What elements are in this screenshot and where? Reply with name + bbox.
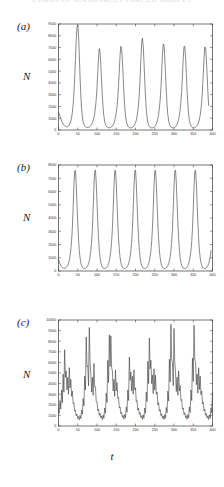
svg-text:0: 0 [54,424,56,428]
svg-text:6000: 6000 [48,361,56,365]
running-head-text: CHAOS IN SEASONALLY FORCED MODELS [32,0,191,4]
svg-text:250: 250 [152,428,158,432]
svg-text:400: 400 [210,132,216,136]
svg-text:250: 250 [152,273,158,277]
svg-text:150: 150 [113,132,119,136]
svg-text:50: 50 [76,132,80,136]
svg-text:4000: 4000 [48,382,56,386]
svg-text:4000: 4000 [48,81,56,85]
svg-text:3000: 3000 [48,393,56,397]
panel-b-y-axis-title: N [23,211,30,223]
svg-text:8000: 8000 [48,340,56,344]
svg-text:3000: 3000 [48,93,56,97]
svg-text:300: 300 [171,273,177,277]
panel-c-plot: 0100020003000400050006000700080009000100… [40,314,216,450]
svg-text:1000: 1000 [48,117,56,121]
panel-c-y-axis-title: N [23,368,30,380]
panel-c: (c) N 0100020003000400050006000700080009… [0,310,224,460]
svg-text:300: 300 [171,428,177,432]
svg-text:4000: 4000 [48,216,56,220]
svg-text:2000: 2000 [48,243,56,247]
svg-text:7000: 7000 [48,350,56,354]
svg-text:50: 50 [76,428,80,432]
svg-text:10000: 10000 [46,318,56,322]
panel-b-label: (b) [17,161,30,173]
svg-text:5000: 5000 [48,70,56,74]
svg-text:5000: 5000 [48,371,56,375]
svg-text:150: 150 [113,428,119,432]
svg-text:0: 0 [58,273,60,277]
svg-text:6000: 6000 [48,58,56,62]
svg-text:50: 50 [76,273,80,277]
svg-text:3000: 3000 [48,230,56,234]
svg-text:300: 300 [171,132,177,136]
svg-text:2000: 2000 [48,403,56,407]
svg-text:0: 0 [58,132,60,136]
svg-text:8000: 8000 [48,163,56,167]
svg-text:350: 350 [190,428,196,432]
panel-b-plot: 0100020003000400050006000700080000501001… [40,159,216,295]
panel-a-label: (a) [17,20,30,32]
series-line [59,25,209,128]
svg-text:2000: 2000 [48,105,56,109]
svg-text:8000: 8000 [48,34,56,38]
svg-text:5000: 5000 [48,203,56,207]
svg-text:150: 150 [113,273,119,277]
svg-text:0: 0 [54,269,56,273]
svg-text:350: 350 [190,273,196,277]
panel-a-plot: 0100020003000400050006000700080009000050… [40,18,216,154]
series-line [59,324,213,420]
svg-text:100: 100 [94,132,100,136]
panel-c-label: (c) [17,316,29,328]
svg-text:100: 100 [94,273,100,277]
panel-b: (b) N 0100020003000400050006000700080000… [0,155,224,295]
svg-text:9000: 9000 [48,329,56,333]
svg-text:0: 0 [54,128,56,132]
running-head: CHAOS IN SEASONALLY FORCED MODELS [0,0,224,11]
svg-text:200: 200 [133,132,139,136]
svg-text:400: 400 [210,273,216,277]
svg-text:200: 200 [133,428,139,432]
svg-text:6000: 6000 [48,190,56,194]
x-axis-title: t [0,450,224,462]
svg-text:0: 0 [58,428,60,432]
svg-text:100: 100 [94,428,100,432]
series-line [59,170,211,269]
svg-text:250: 250 [152,132,158,136]
panel-a-y-axis-title: N [23,70,30,82]
svg-text:1000: 1000 [48,256,56,260]
svg-text:1000: 1000 [48,414,56,418]
svg-text:400: 400 [210,428,216,432]
svg-text:7000: 7000 [48,177,56,181]
panel-a: (a) N 0100020003000400050006000700080009… [0,14,224,154]
svg-text:200: 200 [133,273,139,277]
figure-page: CHAOS IN SEASONALLY FORCED MODELS (a) N … [0,0,224,487]
svg-text:9000: 9000 [48,22,56,26]
svg-text:7000: 7000 [48,46,56,50]
svg-text:350: 350 [190,132,196,136]
